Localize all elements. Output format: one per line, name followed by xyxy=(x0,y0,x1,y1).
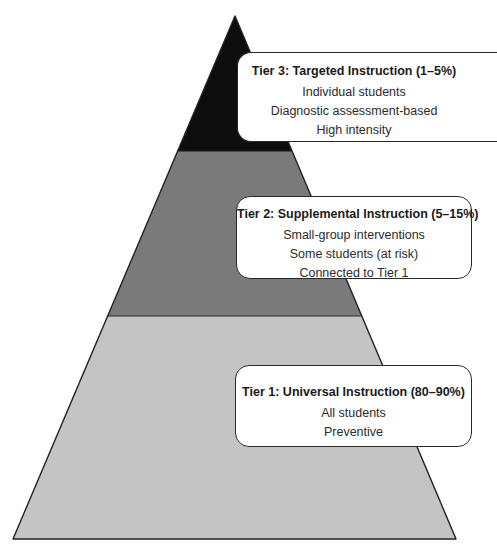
tier3-label-box: Tier 3: Targeted Instruction (1–5%) Indi… xyxy=(237,52,497,142)
tier2-line-2: Some students (at risk) xyxy=(237,245,471,264)
tier1-label-box: Tier 1: Universal Instruction (80–90%) A… xyxy=(235,365,472,447)
tier2-line-1: Small-group interventions xyxy=(237,226,471,245)
tier1-title: Tier 1: Universal Instruction (80–90%) xyxy=(236,383,471,402)
tier3-line-3: High intensity xyxy=(238,121,470,140)
tier3-line-1: Individual students xyxy=(238,83,470,102)
tier2-title: Tier 2: Supplemental Instruction (5–15%) xyxy=(237,205,471,224)
tier3-line-2: Diagnostic assessment-based xyxy=(238,102,470,121)
tier1-line-1: All students xyxy=(236,404,471,423)
tier2-label-box: Tier 2: Supplemental Instruction (5–15%)… xyxy=(236,196,472,279)
tier3-title: Tier 3: Targeted Instruction (1–5%) xyxy=(238,62,470,81)
tier1-line-2: Preventive xyxy=(236,423,471,442)
tier2-line-3: Connected to Tier 1 xyxy=(237,264,471,283)
